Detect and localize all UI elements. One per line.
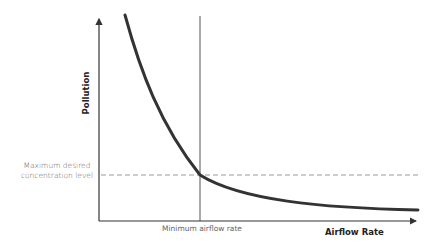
min-airflow-label: Minimum airflow rate	[160, 224, 244, 234]
pollution-curve	[125, 15, 418, 210]
threshold-label-line2: concentration level	[14, 171, 100, 181]
chart-canvas	[0, 0, 448, 242]
threshold-label-line1: Maximum desired	[14, 161, 100, 171]
x-axis-title: Airflow Rate	[325, 227, 384, 237]
threshold-label: Maximum desired concentration level	[14, 161, 100, 181]
y-axis-title: Pollution	[81, 63, 91, 123]
